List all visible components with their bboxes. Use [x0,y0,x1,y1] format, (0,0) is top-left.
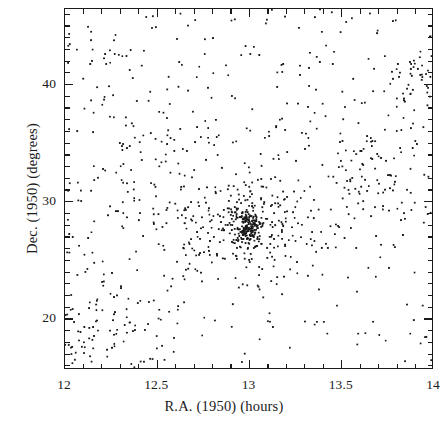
y-axis-tick [428,236,433,237]
y-axis-tick [428,225,433,226]
scatter-plot-figure: 1212.51313.514 203040 R.A. (1950) (hours… [0,0,448,422]
y-axis-tick [428,248,433,249]
x-axis-tick [397,364,398,369]
y-axis-tick [428,154,433,155]
y-axis-tick [65,201,73,202]
y-axis-tick [65,61,70,62]
x-tick-label: 13 [219,378,279,392]
y-axis-tick [428,14,433,15]
y-axis-tick [428,178,433,179]
x-axis-tick [286,364,287,369]
y-axis-tick [65,119,70,120]
y-axis-tick [424,201,432,202]
y-axis-tick [428,143,433,144]
x-axis-tick [378,364,379,369]
y-axis-tick [428,72,433,73]
y-axis-tick [65,295,70,296]
x-axis-tick [397,9,398,14]
x-axis-tick [120,364,121,369]
y-axis-tick [65,365,70,366]
plot-frame [64,8,433,369]
x-axis-tick [304,364,305,369]
x-axis-tick [138,9,139,14]
x-axis-tick [360,364,361,369]
y-axis-tick [65,342,70,343]
x-axis-tick [323,364,324,369]
x-axis-tick [267,364,268,369]
y-axis-tick [428,61,433,62]
y-axis-tick [65,307,70,308]
y-axis-tick [65,236,70,237]
y-axis-tick [65,189,70,190]
x-axis-tick [415,9,416,14]
x-axis-tick [101,364,102,369]
x-axis-tick [415,364,416,369]
y-axis-tick [65,37,70,38]
x-axis-tick [83,9,84,14]
y-axis-tick [428,260,433,261]
x-axis-tick [341,360,342,368]
y-axis-tick [65,84,73,85]
x-axis-tick [267,9,268,14]
y-axis-tick [428,213,433,214]
y-axis-tick [428,295,433,296]
y-axis-tick [424,318,432,319]
x-axis-tick [230,9,231,14]
x-axis-tick [323,9,324,14]
y-axis-tick [428,107,433,108]
x-axis-tick [175,364,176,369]
y-axis-tick [65,213,70,214]
y-axis-tick [65,178,70,179]
x-axis-tick [286,9,287,14]
y-axis-tick [428,189,433,190]
y-axis-tick [65,225,70,226]
y-axis-tick [65,354,70,355]
y-axis-tick [428,342,433,343]
x-axis-tick [194,9,195,14]
x-tick-label: 14 [403,378,448,392]
x-axis-tick [83,364,84,369]
y-axis-tick [65,49,70,50]
x-axis-tick [212,364,213,369]
y-axis-tick [65,166,70,167]
y-axis-tick [65,154,70,155]
y-axis-tick [428,330,433,331]
y-axis-tick [65,107,70,108]
y-axis-tick [65,72,70,73]
y-axis-tick [428,119,433,120]
x-axis-tick [341,9,342,17]
y-axis-tick [65,318,73,319]
y-axis-tick [428,37,433,38]
y-axis-tick [428,166,433,167]
y-axis-tick [428,96,433,97]
y-axis-tick [428,354,433,355]
y-axis-tick [65,14,70,15]
x-axis-tick [249,9,250,17]
y-axis-tick [428,283,433,284]
y-axis-tick [65,260,70,261]
x-axis-tick [360,9,361,14]
y-axis-tick [65,283,70,284]
x-axis-tick [212,9,213,14]
data-points-layer [65,9,432,368]
y-axis-tick [424,84,432,85]
y-axis-tick [428,25,433,26]
x-axis-tick [138,364,139,369]
x-axis-tick [157,9,158,17]
x-axis-tick [194,364,195,369]
y-axis-tick [65,25,70,26]
y-axis-tick [65,96,70,97]
x-axis-tick [304,9,305,14]
x-axis-tick [175,9,176,14]
x-tick-label: 12 [34,378,94,392]
x-axis-tick [101,9,102,14]
x-tick-label: 12.5 [126,378,186,392]
x-axis-title: R.A. (1950) (hours) [0,398,448,415]
y-axis-tick [428,49,433,50]
y-axis-tick [428,131,433,132]
x-axis-tick [378,9,379,14]
y-axis-tick [65,272,70,273]
x-tick-label: 13.5 [311,378,371,392]
y-axis-title: Dec. (1950) (degrees) [24,89,41,289]
x-axis-tick [249,360,250,368]
